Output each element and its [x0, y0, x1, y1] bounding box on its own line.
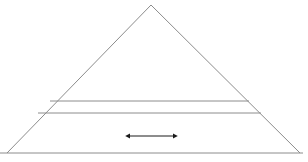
figure-canvas: [0, 0, 308, 162]
triangle-diagram-svg: [0, 0, 308, 162]
diagram-background: [0, 0, 308, 162]
